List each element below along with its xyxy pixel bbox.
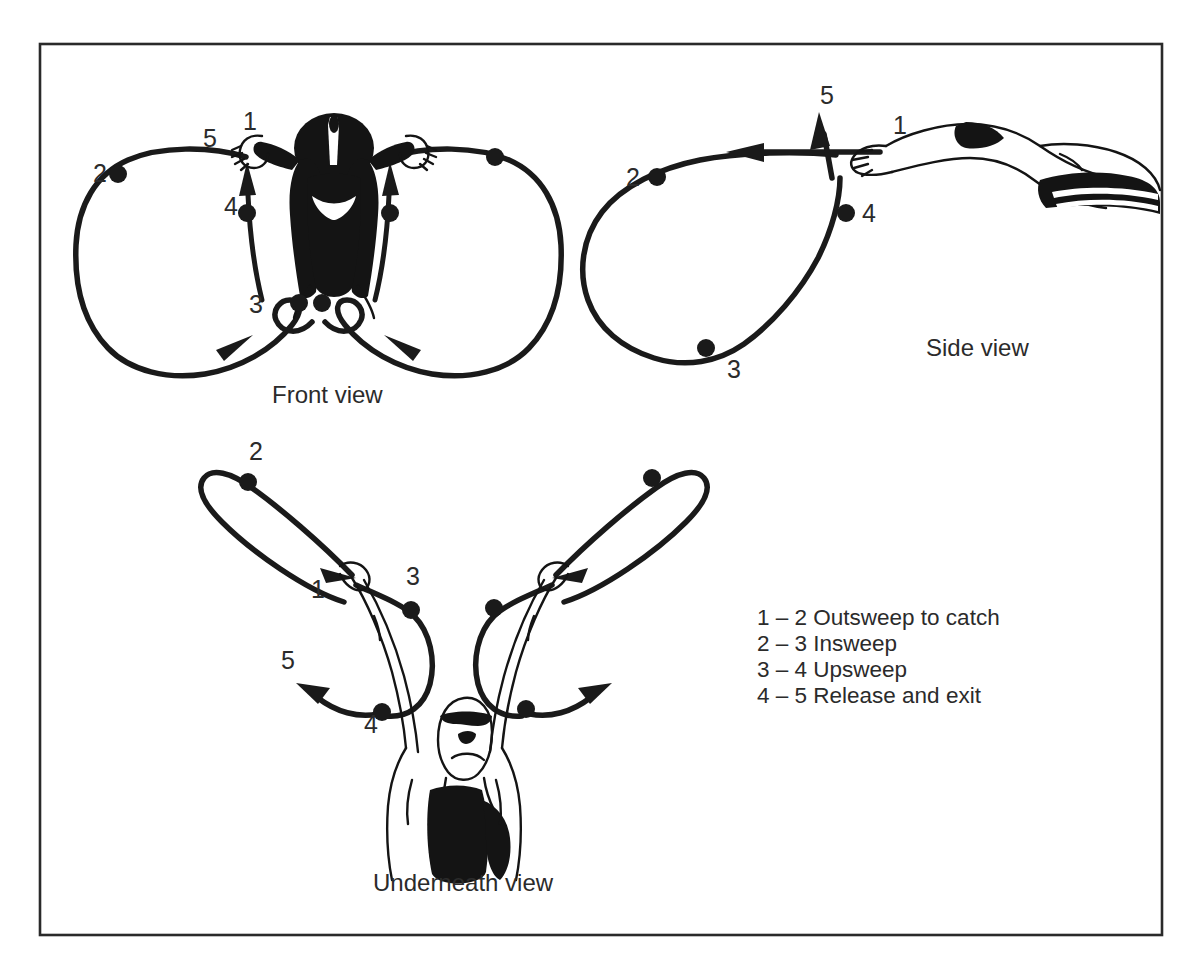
under-point-4-dot-mirror <box>517 700 535 718</box>
under-point-2-dot <box>239 473 257 491</box>
underneath-view-group: 2 1 3 5 4 Underneath view <box>201 437 707 896</box>
under-number-4: 4 <box>364 710 378 738</box>
figure-border <box>40 44 1162 935</box>
under-number-1: 1 <box>311 575 325 603</box>
under-armpit-left <box>407 780 412 824</box>
under-arm-right-crease <box>528 616 534 640</box>
under-number-2: 2 <box>249 437 263 465</box>
front-point-3-dot-mirror <box>313 294 331 312</box>
front-number-3: 3 <box>249 290 263 318</box>
front-point-4-dot <box>238 204 256 222</box>
side-entry-arrowhead <box>726 143 764 162</box>
swimmer-chest <box>307 174 360 298</box>
front-point-2-dot-mirror <box>486 148 504 166</box>
side-view-label: Side view <box>926 334 1029 361</box>
under-arm-left-crease <box>374 616 380 640</box>
side-view-group: 5 1 2 4 3 Side view <box>583 81 1160 383</box>
side-exit-arrowhead <box>810 112 830 150</box>
front-view-swimmer <box>232 113 436 318</box>
side-point-2-dot <box>648 168 666 186</box>
side-number-5: 5 <box>820 81 834 109</box>
under-point-3-dot <box>402 601 420 619</box>
nose <box>458 731 476 744</box>
under-left-outer-loop <box>201 473 352 602</box>
front-left-stroke-path <box>76 149 312 376</box>
under-right-exit-line <box>530 698 590 715</box>
front-view-group: 1 5 2 4 3 Front view <box>76 107 561 408</box>
phase-legend: 1 – 2 Outsweep to catch 2 – 3 Insweep 3 … <box>757 605 1000 708</box>
under-number-5: 5 <box>281 646 295 674</box>
front-point-3-dot <box>290 294 308 312</box>
under-shoulder-left <box>387 748 406 880</box>
side-point-3-dot <box>697 339 715 357</box>
mouth <box>452 754 484 760</box>
legend-item-1-2: 1 – 2 Outsweep to catch <box>757 605 1000 630</box>
underneath-view-label: Underneath view <box>373 869 554 896</box>
front-view-label: Front view <box>272 381 383 408</box>
front-point-2-dot <box>109 165 127 183</box>
legend-item-2-3: 2 – 3 Insweep <box>757 631 897 656</box>
under-right-outer-loop <box>556 473 707 602</box>
goggles <box>440 712 492 727</box>
under-number-3: 3 <box>406 562 420 590</box>
cap-top-knot <box>329 115 339 133</box>
legend-item-4-5: 4 – 5 Release and exit <box>757 683 982 708</box>
front-point-4-dot-mirror <box>381 204 399 222</box>
side-stroke-path <box>583 153 840 363</box>
side-number-4: 4 <box>862 199 876 227</box>
torso-crease <box>1060 154 1082 170</box>
front-number-2: 2 <box>93 159 107 187</box>
stroke-pattern-figure: 1 5 2 4 3 Front view <box>0 0 1202 968</box>
front-number-4: 4 <box>224 192 238 220</box>
side-number-2: 2 <box>626 163 640 191</box>
side-number-3: 3 <box>727 355 741 383</box>
side-number-1: 1 <box>893 111 907 139</box>
figure-canvas: 1 5 2 4 3 Front view <box>0 0 1202 968</box>
legend-item-3-4: 3 – 4 Upsweep <box>757 657 907 682</box>
front-number-1: 1 <box>243 107 257 135</box>
under-point-2-dot-mirror <box>643 469 661 487</box>
side-point-4-dot <box>837 204 855 222</box>
under-point-3-dot-mirror <box>485 599 503 617</box>
front-number-5: 5 <box>203 124 217 152</box>
